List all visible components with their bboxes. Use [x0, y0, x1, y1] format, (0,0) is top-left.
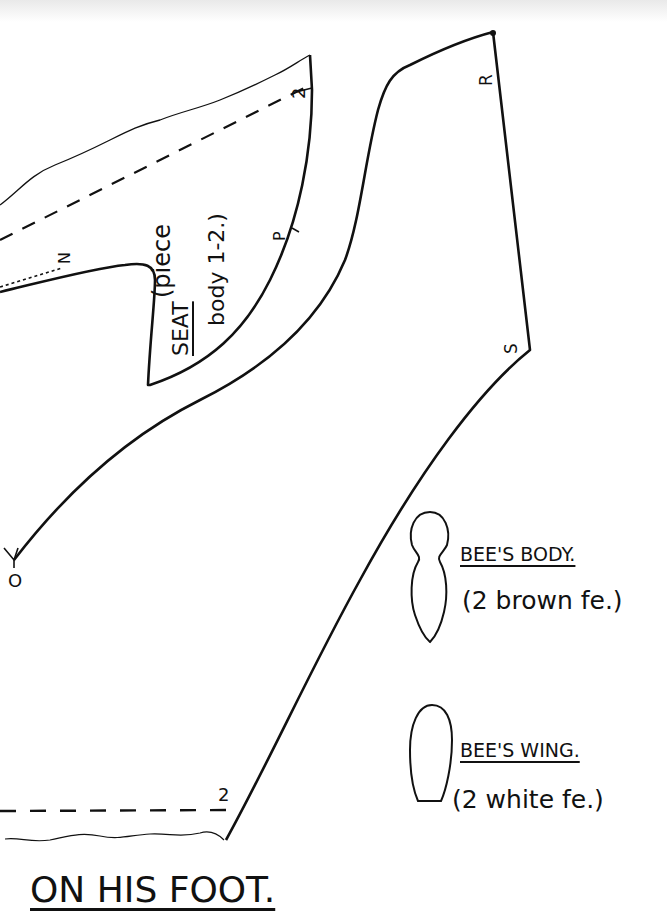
- point-label-o: O: [8, 572, 22, 590]
- pattern-sheet: R S P N 2 O 2 SEAT (piece body 1-2.) BEE…: [0, 0, 667, 919]
- seat-title: SEAT: [170, 301, 192, 356]
- dashed-fold-line-bottom: [0, 810, 235, 811]
- point-label-n: N: [57, 252, 73, 264]
- seat-note-line1: (piece: [150, 224, 174, 298]
- tick-mark-p: [292, 228, 299, 232]
- point-label-r: R: [478, 74, 495, 86]
- bee-wing-title: BEE'S WING.: [460, 741, 580, 760]
- point-label-s: S: [503, 343, 520, 354]
- bee-body-note: (2 brown fe.): [462, 588, 623, 613]
- point-label-p: P: [272, 231, 288, 241]
- foot-piece-outline: [14, 32, 530, 840]
- bee-body-title: BEE'S BODY.: [460, 545, 575, 564]
- corner-dot-r: [490, 30, 496, 36]
- caption-title: ON HIS FOOT.: [30, 872, 275, 908]
- point-label-2-bottom: 2: [218, 786, 229, 804]
- pattern-drawing: [0, 0, 667, 919]
- point-label-2-top: 2: [290, 88, 308, 99]
- seat-piece-outline: [0, 55, 312, 385]
- seat-note-line2: body 1-2.): [206, 213, 228, 326]
- wavy-cut-edge-top: [0, 55, 310, 205]
- bee-wing-note: (2 white fe.): [452, 787, 604, 812]
- bee-wing-shape: [410, 705, 452, 801]
- dashed-fold-line-top: [0, 85, 310, 240]
- wavy-cut-edge-bottom: [5, 832, 224, 841]
- bee-body-shape: [411, 512, 448, 642]
